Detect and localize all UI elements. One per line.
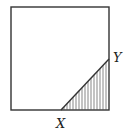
label-x: X [55,116,66,131]
square-diagram: X Y [0,0,130,133]
label-y: Y [113,50,123,65]
